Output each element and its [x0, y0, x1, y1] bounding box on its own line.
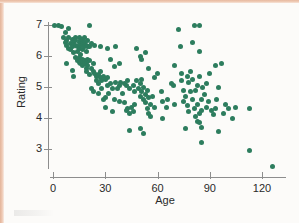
data-point: [197, 74, 202, 79]
y-tick-label: 5: [28, 81, 42, 92]
data-point: [199, 140, 204, 145]
data-point: [134, 46, 139, 51]
data-point: [185, 74, 190, 79]
data-point: [207, 71, 212, 76]
plot-area: 34567 0306090120 Rating Age: [0, 0, 299, 223]
data-point: [113, 44, 118, 49]
data-point: [122, 100, 127, 105]
y-tick-label: 6: [28, 50, 42, 61]
data-point: [127, 128, 132, 133]
data-point: [103, 105, 108, 110]
data-point: [211, 112, 216, 117]
data-point: [176, 27, 181, 32]
data-point: [199, 97, 204, 102]
x-tick-label: 90: [195, 182, 225, 194]
data-point: [195, 102, 200, 107]
data-point: [193, 88, 198, 93]
x-tick-label: 60: [143, 182, 173, 194]
data-point: [226, 106, 231, 111]
data-point: [152, 75, 157, 80]
data-point: [247, 148, 252, 153]
y-tick: [44, 56, 52, 57]
data-point: [103, 95, 108, 100]
y-tick-label: 4: [28, 112, 42, 123]
data-point: [221, 111, 226, 116]
y-axis-line: [48, 22, 49, 169]
data-point: [141, 131, 146, 136]
data-point: [150, 94, 155, 99]
x-tick-label: 0: [38, 182, 68, 194]
data-point: [99, 86, 104, 91]
data-point: [66, 26, 71, 31]
data-point: [190, 77, 195, 82]
data-point: [105, 75, 110, 80]
data-point: [199, 125, 204, 130]
data-point: [206, 99, 211, 104]
data-point: [219, 61, 224, 66]
data-point: [139, 77, 144, 82]
data-point: [146, 66, 151, 71]
data-point: [192, 106, 197, 111]
data-point: [230, 116, 235, 121]
data-point: [183, 94, 188, 99]
data-point: [188, 69, 193, 74]
data-point: [70, 68, 75, 73]
data-point: [145, 88, 150, 93]
data-point: [164, 105, 169, 110]
y-tick-label: 7: [28, 19, 42, 30]
data-point: [247, 106, 252, 111]
data-point: [204, 105, 209, 110]
x-axis-label: Age: [135, 194, 195, 206]
data-point: [87, 23, 92, 28]
data-point: [117, 61, 122, 66]
data-point: [131, 83, 136, 88]
data-point: [64, 61, 69, 66]
data-point: [172, 63, 177, 68]
data-point: [202, 92, 207, 97]
data-point: [270, 164, 275, 169]
data-point: [106, 91, 111, 96]
data-point: [213, 106, 218, 111]
data-point: [108, 57, 113, 62]
data-point: [165, 97, 170, 102]
data-point: [204, 81, 209, 86]
data-point: [183, 126, 188, 131]
data-point: [172, 102, 177, 107]
data-point: [199, 108, 204, 113]
data-point: [213, 63, 218, 68]
x-axis-line: [50, 177, 286, 178]
y-tick: [44, 25, 52, 26]
caption-smudge: [14, 210, 54, 216]
data-point: [120, 91, 125, 96]
data-point: [117, 99, 122, 104]
data-point: [233, 105, 238, 110]
x-tick: [158, 172, 159, 179]
y-tick: [44, 149, 52, 150]
x-tick: [105, 172, 106, 179]
data-point: [59, 24, 64, 29]
data-point: [143, 50, 148, 55]
x-tick: [262, 172, 263, 179]
data-point: [110, 109, 115, 114]
data-point: [197, 23, 202, 28]
data-point: [190, 97, 195, 102]
data-point: [181, 88, 186, 93]
x-tick: [210, 172, 211, 179]
data-point: [186, 109, 191, 114]
scatter-plot-figure: 34567 0306090120 Rating Age: [0, 0, 299, 223]
y-tick: [44, 118, 52, 119]
y-axis-label: Rating: [15, 62, 27, 122]
x-tick-label: 120: [247, 182, 277, 194]
data-point: [96, 91, 101, 96]
data-point: [152, 105, 157, 110]
data-point: [216, 85, 221, 90]
x-tick-label: 30: [90, 182, 120, 194]
data-point: [125, 78, 130, 83]
data-point: [179, 71, 184, 76]
data-point: [159, 89, 164, 94]
data-point: [91, 89, 96, 94]
x-tick: [53, 172, 54, 179]
data-point: [216, 129, 221, 134]
data-point: [148, 114, 153, 119]
y-tick: [44, 87, 52, 88]
